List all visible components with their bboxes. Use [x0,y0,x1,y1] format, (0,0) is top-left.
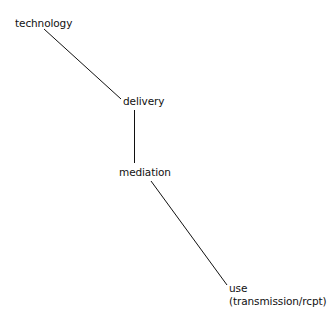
node-technology: technology [15,17,72,29]
node-use: use [229,282,247,294]
edge-mediation-use [151,181,227,285]
node-use-sublabel: (transmission/rcpt) [229,295,327,307]
node-mediation: mediation [119,166,171,178]
edge-technology-delivery [44,29,121,99]
node-delivery: delivery [123,95,164,107]
